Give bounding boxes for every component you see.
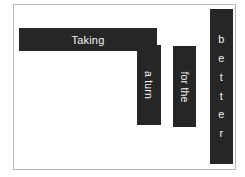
content-panel: Taking a turn for the b e t t e r xyxy=(13,4,236,170)
headline-segment-a-turn-label: a turn xyxy=(143,71,155,99)
headline-segment-a-turn: a turn xyxy=(137,45,161,125)
headline-segment-for-the: for the xyxy=(173,46,196,127)
headline-segment-better: b e t t e r xyxy=(210,9,233,164)
headline-segment-taking-label: Taking xyxy=(72,34,105,46)
poster-canvas: Taking a turn for the b e t t e r xyxy=(0,0,245,177)
headline-segment-better-label: b e t t e r xyxy=(218,30,224,143)
crop-mark-bottom-icon xyxy=(0,6,12,12)
headline-segment-for-the-label: for the xyxy=(179,71,191,102)
